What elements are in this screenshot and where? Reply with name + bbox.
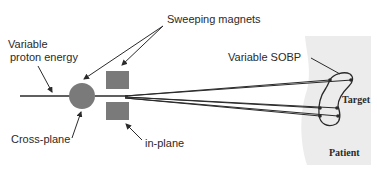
in-plane-magnet-upper bbox=[106, 71, 129, 89]
in-plane-magnet-lower bbox=[106, 102, 129, 120]
proton-scanning-diagram: Sweeping magnets Variable proton energy … bbox=[0, 0, 377, 169]
variable-energy-label-line1: Variable bbox=[8, 38, 48, 50]
variable-energy-label-line2: proton energy bbox=[10, 51, 78, 63]
sweeping-magnets-label: Sweeping magnets bbox=[167, 13, 261, 25]
variable-sobp-label: Variable SOBP bbox=[228, 51, 301, 63]
target-label: Target bbox=[342, 94, 371, 105]
patient-label: Patient bbox=[329, 147, 360, 158]
in-plane-label: in-plane bbox=[145, 137, 184, 149]
cross-plane-label: Cross-plane bbox=[11, 133, 70, 145]
cross-plane-magnet bbox=[69, 83, 95, 109]
